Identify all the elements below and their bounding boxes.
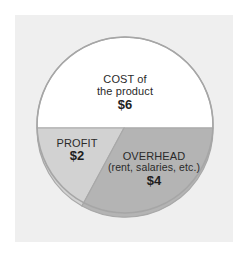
label-cost-line1: COST of <box>85 73 165 85</box>
label-profit-value: $2 <box>52 149 102 164</box>
label-cost-line2: the product <box>85 85 165 97</box>
pie-chart <box>0 0 245 257</box>
label-cost-value: $6 <box>85 98 165 113</box>
label-profit: PROFIT $2 <box>52 137 102 164</box>
label-cost: COST of the product $6 <box>85 73 165 112</box>
label-overhead: OVERHEAD (rent, salaries, etc.) $4 <box>104 150 204 189</box>
label-overhead-value: $4 <box>104 174 204 189</box>
